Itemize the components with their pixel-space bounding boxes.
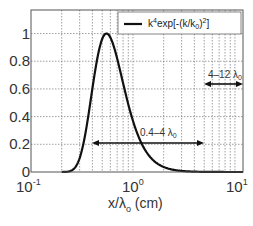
y-tick-label: 1 xyxy=(22,25,30,42)
legend: k4exp[-(k/k0)2] xyxy=(118,12,241,34)
arrow-right-icon xyxy=(236,81,243,87)
annotation-label-4-12: 4–12 λ0 xyxy=(208,69,242,81)
y-tick-label: 0.8 xyxy=(9,52,30,69)
x-tick-0.1: 10-1 xyxy=(16,177,41,195)
x-axis-ticks: 10-1 100 101 xyxy=(16,177,248,195)
data-line xyxy=(62,34,243,172)
y-tick-label: 0.4 xyxy=(9,108,30,125)
y-axis-ticks: 00.20.40.60.81 xyxy=(9,25,30,180)
chart: 00.20.40.60.81 10-1 100 101 x/λo (cm) k4… xyxy=(0,0,253,226)
arrow-left-icon xyxy=(204,81,211,87)
x-tick-10: 101 xyxy=(226,177,248,195)
annotation-0.4-4: 0.4–4 λ0 xyxy=(92,127,204,146)
y-tick-label: 0.6 xyxy=(9,80,30,97)
x-axis-label: x/λo (cm) xyxy=(108,195,163,214)
y-tick-label: 0.2 xyxy=(9,135,30,152)
annotation-4-12: 4–12 λ0 xyxy=(204,69,243,87)
arrow-left-icon xyxy=(92,140,99,146)
arrow-right-icon xyxy=(197,140,204,146)
legend-label: k4exp[-(k/k0)2] xyxy=(148,17,209,30)
x-tick-1: 100 xyxy=(122,177,144,195)
annotation-label-0.4-4: 0.4–4 λ0 xyxy=(140,127,177,139)
